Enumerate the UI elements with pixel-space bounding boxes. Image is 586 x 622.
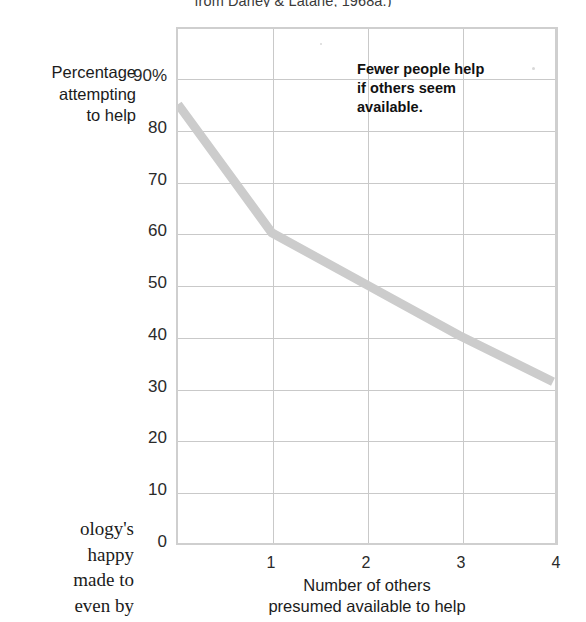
page-body-text-line-4: even by <box>0 593 134 619</box>
y-axis-tick-value: 60 <box>148 221 167 241</box>
y-axis-title-line-1: Percentage <box>0 62 136 84</box>
page-body-text-line-1: ology's <box>0 516 134 542</box>
y-axis-tick-value: 80 <box>148 118 167 138</box>
y-axis-tick-value: 10 <box>148 480 167 500</box>
chart-annotation-line-3: available. <box>357 98 484 117</box>
y-axis-title-line-2: attempting <box>0 84 136 106</box>
y-axis-tick-value: 50 <box>148 273 167 293</box>
y-axis-tick-value: 40 <box>148 325 167 345</box>
y-axis-tick-value: 90% <box>133 66 167 86</box>
y-axis-tick-value: 70 <box>148 170 167 190</box>
x-axis-tick-label: 2 <box>362 554 371 572</box>
scan-speck <box>320 43 322 45</box>
y-axis-tick-value: 30 <box>148 377 167 397</box>
chart-annotation-line-2: if others seem <box>357 79 484 98</box>
chart-annotation: Fewer people help if others seem availab… <box>357 60 484 117</box>
page-body-text-bleed: ology's happy made to even by <box>0 516 134 618</box>
x-axis-tick-label: 4 <box>552 554 561 572</box>
x-axis-title-line-1: Number of others <box>176 575 558 596</box>
x-axis-tick-label: 1 <box>267 554 276 572</box>
y-axis-title: Percentage attempting to help <box>0 62 136 127</box>
chart-annotation-line-1: Fewer people help <box>357 60 484 79</box>
x-axis-tick-label: 3 <box>457 554 466 572</box>
x-axis-title-line-2: presumed available to help <box>176 596 558 617</box>
y-axis-title-line-3: to help <box>0 105 136 127</box>
scan-speck <box>532 67 535 70</box>
y-axis-tick-value: 20 <box>148 428 167 448</box>
figure-caption-bleed: from Darley & Latané, 1968a.) <box>0 0 586 7</box>
page-body-text-line-3: made to <box>0 567 134 593</box>
x-axis-title: Number of others presumed available to h… <box>176 575 558 617</box>
page-body-text-line-2: happy <box>0 542 134 568</box>
y-axis-tick-value: 0 <box>158 532 167 552</box>
